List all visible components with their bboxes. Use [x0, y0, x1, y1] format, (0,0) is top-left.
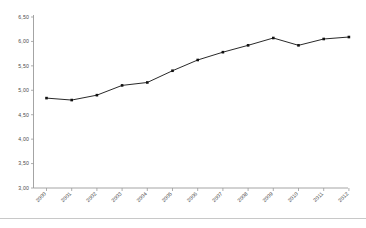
data-point-marker	[222, 51, 225, 54]
y-tick-label: 5,50	[18, 63, 29, 69]
y-tick-label: 5,00	[18, 87, 29, 93]
x-tick-label: 2005	[160, 190, 173, 203]
y-tick-label: 3,00	[18, 185, 29, 191]
data-point-marker	[348, 36, 351, 39]
line-chart: 6,506,005,505,004,504,003,503,00 2000200…	[0, 0, 366, 228]
data-point-marker	[322, 38, 325, 41]
x-tick-label: 2009	[261, 190, 274, 203]
y-tick-label: 6,50	[18, 14, 29, 20]
y-axis: 6,506,005,505,004,504,003,503,00	[18, 14, 33, 191]
footer-divider	[0, 218, 366, 219]
data-point-marker	[297, 44, 300, 47]
x-tick-label: 2004	[135, 190, 148, 203]
data-point-marker	[272, 37, 275, 40]
x-tick-label: 2003	[110, 190, 123, 203]
series-line	[47, 37, 349, 100]
x-tick-label: 2011	[312, 190, 325, 203]
data-point-marker	[247, 44, 250, 47]
data-series	[45, 36, 350, 102]
x-tick-label: 2010	[286, 190, 299, 203]
y-tick-label: 4,50	[18, 112, 29, 118]
x-tick-label: 2007	[211, 190, 224, 203]
data-point-marker	[45, 97, 48, 100]
data-point-marker	[171, 69, 174, 72]
x-tick-label: 2001	[60, 190, 73, 203]
x-tick-label: 2000	[34, 190, 47, 203]
x-tick-label: 2012	[337, 190, 350, 203]
y-tick-label: 4,00	[18, 136, 29, 142]
data-point-marker	[196, 59, 199, 62]
data-point-marker	[121, 84, 124, 87]
data-point-marker	[96, 94, 99, 97]
x-tick-label: 2002	[85, 190, 98, 203]
x-axis: 2000200120022003200420052006200720082009…	[34, 188, 350, 203]
y-tick-label: 3,50	[18, 160, 29, 166]
y-tick-label: 6,00	[18, 38, 29, 44]
x-tick-label: 2008	[236, 190, 249, 203]
x-tick-label: 2006	[186, 190, 199, 203]
data-point-marker	[146, 81, 149, 84]
chart-figure: 6,506,005,505,004,504,003,503,00 2000200…	[0, 0, 366, 228]
data-point-marker	[70, 99, 73, 102]
